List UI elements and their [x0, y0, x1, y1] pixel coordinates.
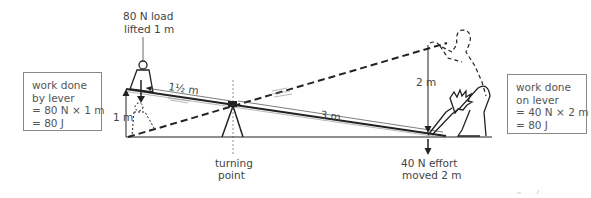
box-line: = 80 J: [32, 117, 93, 130]
pivot-label-line1: turning: [215, 157, 253, 169]
box-line: by lever: [32, 92, 93, 105]
fulcrum-icon: [222, 80, 243, 155]
box-line: work done: [32, 79, 93, 92]
pivot-label-line2: point: [218, 169, 245, 181]
work-done-by-lever-box: work done by lever = 80 N × 1 m = 80 J: [23, 72, 102, 131]
box-line: on lever: [516, 94, 578, 107]
lever-bar: [126, 89, 446, 136]
box-line: = 80 N × 1 m: [32, 104, 93, 117]
effort-label-line1: 40 N effort: [401, 157, 457, 169]
box-line: work done: [516, 81, 578, 94]
work-done-on-lever-box: work done on lever = 40 N × 2 m = 80 J: [507, 74, 587, 134]
box-line: = 80 J: [516, 119, 578, 132]
box-line: = 40 N × 2 m: [516, 106, 578, 119]
load-height-label: 1 m: [113, 111, 133, 123]
effort-label-line2: moved 2 m: [402, 169, 462, 181]
effort-figure-raised-icon: [430, 30, 486, 96]
effort-arm-label: 3 m: [320, 108, 342, 123]
load-label-line2: lifted 1 m: [124, 23, 174, 35]
load-arm-label: 1½ m: [168, 80, 200, 96]
load-label-line1: 80 N load: [123, 10, 173, 22]
effort-figure-icon: [428, 86, 490, 136]
effort-height-label: 2 m: [416, 76, 436, 88]
